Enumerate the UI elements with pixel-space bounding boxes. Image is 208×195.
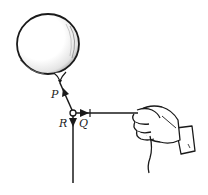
knot [70,110,76,116]
hanging-string [69,116,77,183]
label-p: P [51,89,58,100]
balloon [17,14,79,84]
string-to-balloon [60,83,72,110]
arrow-r-icon [69,118,77,127]
diagram-canvas [0,0,208,195]
label-r: R [59,118,67,129]
dangling-string [148,136,151,173]
arrow-q-icon [80,109,89,117]
label-q: Q [79,118,88,129]
hand-icon [133,106,195,154]
string-to-hand [76,109,138,117]
